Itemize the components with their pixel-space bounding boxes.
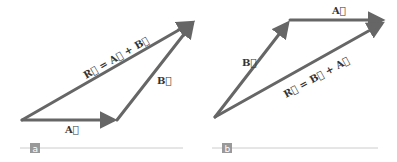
vector-b-arrow (117, 24, 192, 120)
vector-r-arrow (215, 24, 381, 117)
vector-b-arrow (215, 24, 287, 117)
label-vector-b: B⃗ (157, 75, 171, 86)
vector-r-arrow (22, 23, 191, 120)
label-vector-a: A⃗ (64, 124, 79, 135)
panel-a-tag: a (33, 144, 39, 154)
panel-a: A⃗ B⃗ R⃗ = A⃗ + B⃗ a (20, 23, 192, 154)
vector-addition-diagram: A⃗ B⃗ R⃗ = A⃗ + B⃗ a A⃗ B⃗ R⃗ = B⃗ + A⃗ … (0, 0, 397, 162)
label-vector-b: B⃗ (242, 57, 256, 68)
label-vector-a: A⃗ (331, 5, 346, 16)
panel-b: A⃗ B⃗ R⃗ = B⃗ + A⃗ b (212, 5, 381, 154)
label-equation-a: R⃗ = A⃗ + B⃗ (82, 35, 151, 81)
panel-b-tag: b (225, 144, 231, 154)
